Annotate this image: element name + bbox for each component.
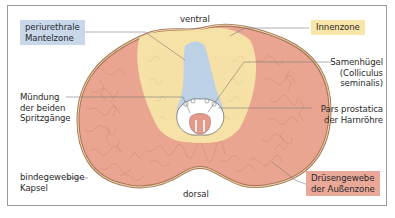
orientation-dorsal: dorsal [183, 189, 209, 200]
label-colliculus-seminalis: Samenhügel (Colliculus seminalis) [330, 57, 383, 89]
label-periurethral-mantle-zone: periurethrale Mantelzone [20, 20, 85, 45]
label-prostatic-urethra: Pars prostatica der Harnröhre [321, 104, 383, 125]
label-inner-zone: Innenzone [311, 20, 365, 35]
colliculus-seminalis [189, 114, 210, 135]
label-outer-zone-gland-tissue: Drüsengewebe der Außenzone [306, 171, 380, 196]
label-connective-capsule: bindegewebige Kapsel [20, 172, 84, 193]
orientation-ventral: ventral [180, 14, 210, 25]
label-ejaculatory-ducts: Mündung der beiden Spritzgänge [20, 92, 71, 124]
